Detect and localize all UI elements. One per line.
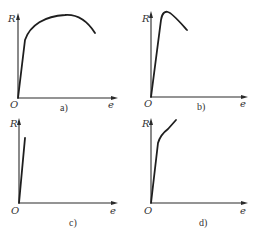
x-axis-label: e (240, 205, 246, 216)
origin-label: O (11, 205, 19, 216)
caption-c: c) (69, 217, 77, 229)
y-axis-arrow-icon (17, 118, 21, 125)
origin-label: O (144, 205, 152, 216)
curve-d (151, 120, 176, 203)
caption-d: d) (199, 217, 207, 229)
caption-b: b) (197, 101, 205, 113)
x-axis-label: e (108, 99, 114, 110)
y-axis-arrow-icon (149, 118, 153, 125)
origin-label: O (10, 99, 18, 110)
panel-a: R O e a) (7, 13, 118, 114)
curve-a (18, 15, 95, 98)
curve-b (151, 12, 187, 97)
x-axis-label: e (240, 98, 246, 109)
y-axis-arrow-icon (16, 13, 20, 20)
origin-label: O (144, 98, 152, 109)
caption-a: a) (60, 102, 68, 114)
y-axis-label: R (7, 13, 16, 24)
y-axis-label: R (9, 118, 18, 129)
y-axis-label: R (141, 13, 150, 24)
x-axis-label: e (110, 205, 116, 216)
y-axis-arrow-icon (149, 11, 153, 18)
panel-c: R O e c) (9, 118, 118, 229)
curve-c (19, 138, 25, 203)
panel-b: R O e b) (141, 11, 248, 113)
panel-d: R O e d) (141, 118, 248, 229)
y-axis-label: R (141, 118, 150, 129)
stress-strain-diagram: R O e a) R O e b) R O e c) R O e d) (0, 0, 262, 238)
